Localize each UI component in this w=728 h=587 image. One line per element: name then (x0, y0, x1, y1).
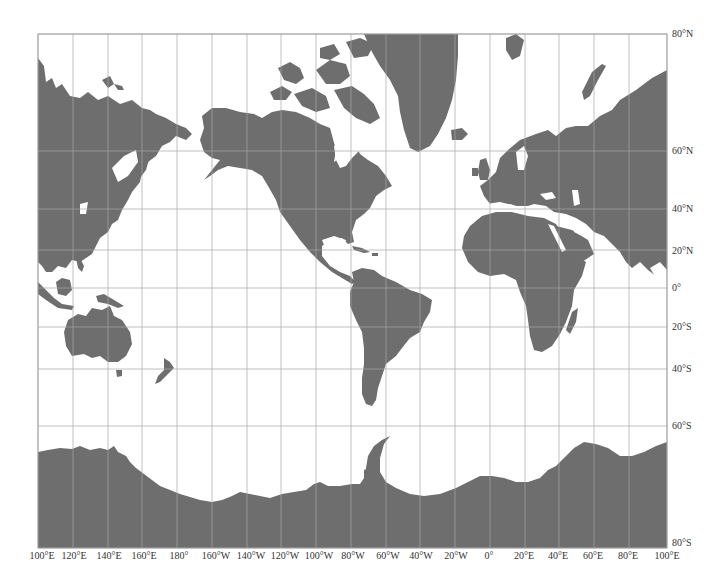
longitude-label: 80°E (618, 551, 638, 561)
longitude-label: 20°W (444, 551, 467, 561)
longitude-label: 40°W (409, 551, 432, 561)
landmass-australia (64, 306, 132, 362)
longitude-label: 60°W (376, 551, 399, 561)
landmass-north-america (200, 108, 392, 284)
landmass-iceland (451, 128, 468, 140)
longitude-label: 140°W (237, 551, 265, 561)
latitude-label: 0° (672, 283, 681, 293)
latitude-label: 20°N (672, 246, 693, 256)
landmass-greenland (364, 34, 458, 152)
longitude-label: 160°W (202, 551, 230, 561)
latitude-label: 60°S (672, 421, 692, 431)
landmass-hispaniola (372, 253, 378, 256)
latitude-label: 80°N (672, 29, 693, 39)
landmass-tasmania (116, 370, 122, 377)
longitude-label: 120°E (61, 551, 86, 561)
landmass-svalbard (506, 34, 524, 60)
latitude-label: 40°N (672, 204, 693, 214)
longitude-label: 60°E (583, 551, 603, 561)
latitude-label: 40°S (672, 364, 692, 374)
longitude-label: 100°E (654, 551, 679, 561)
landmass-great-britain (478, 158, 490, 180)
longitude-label: 160°E (131, 551, 156, 561)
longitude-label: 100°W (305, 551, 333, 561)
landmass-cuba (352, 246, 370, 253)
landmass-new-siberian-islands (102, 76, 124, 90)
longitude-label: 120°W (271, 551, 299, 561)
landmass-new-zealand (155, 358, 174, 384)
longitude-label: 80°W (341, 551, 364, 561)
longitude-label: 40°E (548, 551, 568, 561)
latitude-label: 20°S (672, 322, 692, 332)
landmass-new-guinea (96, 294, 124, 308)
landmass-ireland (472, 168, 478, 176)
longitude-label: 140°E (96, 551, 121, 561)
longitude-label: 0° (485, 551, 494, 561)
landmass-alexander-island (364, 468, 370, 480)
landmass-borneo (56, 278, 72, 296)
world-map (0, 0, 728, 587)
longitude-label: 100°E (29, 551, 54, 561)
latitude-label: 60°N (672, 146, 693, 156)
longitude-label: 20°E (514, 551, 534, 561)
latitude-label: 80°S (672, 538, 692, 548)
longitude-label: 180° (170, 551, 189, 561)
landmass-antarctica (38, 436, 667, 548)
